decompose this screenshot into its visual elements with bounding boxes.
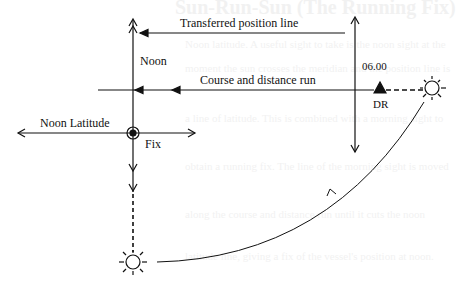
arrowhead-left-icon (135, 87, 143, 94)
morning-position-line (351, 17, 359, 152)
sun-morning-icon (420, 76, 446, 100)
fix-label: Fix (145, 137, 161, 151)
transferred-position-line (140, 30, 345, 37)
dr-label: DR (373, 98, 389, 110)
sun-path-arc (157, 102, 424, 262)
noon-latitude-label: Noon Latitude (40, 116, 110, 130)
dr-triangle-icon (374, 82, 386, 93)
arrowhead-icon (327, 189, 336, 196)
time-0600-label: 06.00 (362, 60, 387, 72)
arrowhead-left-icon (172, 87, 180, 94)
noon-label: Noon (140, 54, 167, 68)
arrowhead-left-icon (140, 30, 148, 37)
sun-noon-icon (119, 250, 147, 275)
course-and-distance-run-label: Course and distance run (200, 73, 316, 87)
noon-latitude-line (18, 129, 195, 137)
transferred-position-line-label: Transferred position line (180, 16, 298, 30)
running-fix-diagram: Transferred position line Noon 06.00 Cou… (0, 0, 460, 288)
